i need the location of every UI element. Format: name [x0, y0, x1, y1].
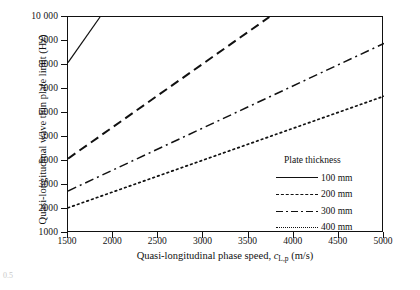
legend-swatch-dash-dot [276, 210, 318, 212]
y-tick-label: 10 000 [0, 11, 58, 21]
y-tick-label: 5000 [0, 131, 58, 141]
x-tick-mark [67, 232, 68, 238]
x-tick-mark [157, 232, 158, 238]
y-tick-mark [61, 160, 67, 161]
y-tick-mark [61, 64, 67, 65]
y-tick-label: 1000 [0, 227, 58, 237]
x-axis-label: Quasi-longitudinal phase speed, cL,p (m/… [67, 250, 383, 263]
y-tick-mark [61, 184, 67, 185]
y-tick-mark [61, 232, 67, 233]
x-tick-mark [112, 232, 113, 238]
legend-entry: 300 mm [276, 207, 352, 217]
series-line-200-mm [68, 17, 269, 159]
y-tick-label: 8000 [0, 59, 58, 69]
x-tick-mark [383, 232, 384, 238]
y-tick-mark [61, 16, 67, 17]
legend-label: 100 mm [321, 174, 352, 184]
y-tick-label: 9000 [0, 35, 58, 45]
y-tick-mark [61, 112, 67, 113]
legend-label: 200 mm [321, 190, 352, 200]
x-tick-mark [248, 232, 249, 238]
y-tick-mark [61, 40, 67, 41]
figure-container: Quasi-longitudinal wave thin plate limit… [0, 0, 420, 290]
legend: Plate thickness 100 mm200 mm300 mm400 mm [276, 156, 352, 240]
caption-fragment: 0.5 [3, 271, 13, 280]
series-line-100-mm [68, 17, 100, 63]
legend-label: 300 mm [321, 207, 352, 217]
legend-swatch-dashed [276, 194, 318, 196]
x-axis-label-units: (m/s) [289, 250, 314, 261]
y-axis-label: Quasi-longitudinal wave thin plate limit… [37, 10, 48, 250]
legend-entry: 400 mm [276, 223, 352, 233]
legend-swatch-dotted [276, 227, 318, 229]
legend-entry: 200 mm [276, 190, 352, 200]
legend-label: 400 mm [321, 223, 352, 233]
y-tick-label: 7000 [0, 83, 58, 93]
y-tick-label: 2000 [0, 203, 58, 213]
legend-entries: 100 mm200 mm300 mm400 mm [276, 174, 352, 233]
y-tick-label: 6000 [0, 107, 58, 117]
legend-swatch-solid [276, 177, 318, 179]
y-tick-mark [61, 88, 67, 89]
x-axis-label-main: Quasi-longitudinal phase speed, [137, 250, 274, 261]
y-tick-label: 4000 [0, 155, 58, 165]
y-tick-mark [61, 208, 67, 209]
x-axis-label-subscript: L,p [278, 254, 288, 263]
legend-title: Plate thickness [284, 156, 352, 166]
y-tick-label: 3000 [0, 179, 58, 189]
legend-entry: 100 mm [276, 174, 352, 184]
x-tick-mark [202, 232, 203, 238]
y-tick-mark [61, 136, 67, 137]
